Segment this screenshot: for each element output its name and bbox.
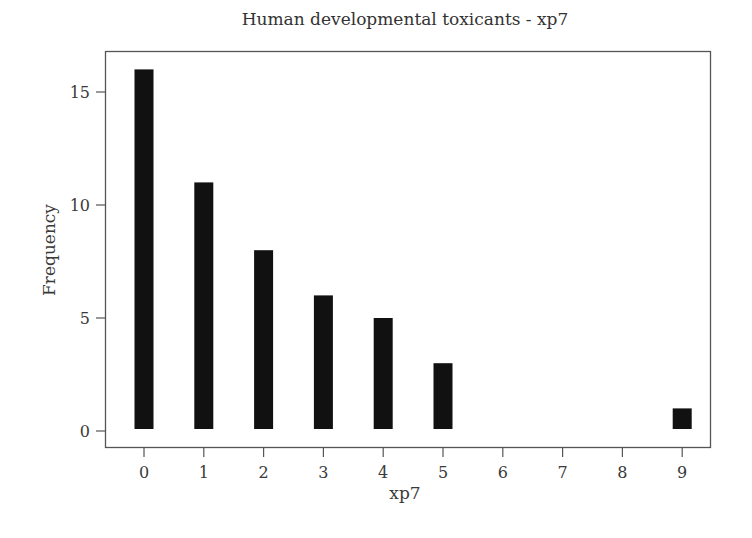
bar-5 bbox=[434, 363, 453, 429]
bar-series bbox=[135, 69, 692, 429]
x-tick-label: 4 bbox=[378, 463, 388, 482]
bar-2 bbox=[254, 250, 273, 429]
histogram-chart: Human developmental toxicants - xp7 0510… bbox=[0, 0, 752, 538]
y-tick-label: 15 bbox=[70, 83, 90, 102]
x-axis: 0123456789 bbox=[139, 448, 687, 483]
x-tick-label: 2 bbox=[259, 463, 269, 482]
x-tick-label: 9 bbox=[677, 463, 687, 482]
chart-title: Human developmental toxicants - xp7 bbox=[242, 9, 569, 29]
x-tick-label: 6 bbox=[498, 463, 508, 482]
x-tick-label: 3 bbox=[318, 463, 328, 482]
bar-3 bbox=[314, 295, 333, 429]
x-tick-label: 0 bbox=[139, 463, 149, 482]
y-axis-label: Frequency bbox=[39, 204, 59, 296]
bar-1 bbox=[194, 182, 213, 429]
x-tick-label: 8 bbox=[617, 463, 627, 482]
x-tick-label: 7 bbox=[558, 463, 568, 482]
bar-9 bbox=[673, 408, 692, 429]
bar-0 bbox=[135, 69, 154, 429]
y-tick-label: 0 bbox=[80, 422, 90, 441]
x-axis-label: xp7 bbox=[389, 483, 420, 503]
y-axis: 051015 bbox=[70, 83, 106, 441]
y-tick-label: 5 bbox=[80, 309, 90, 328]
x-tick-label: 1 bbox=[199, 463, 209, 482]
y-tick-label: 10 bbox=[70, 196, 90, 215]
bar-4 bbox=[374, 318, 393, 429]
x-tick-label: 5 bbox=[438, 463, 448, 482]
